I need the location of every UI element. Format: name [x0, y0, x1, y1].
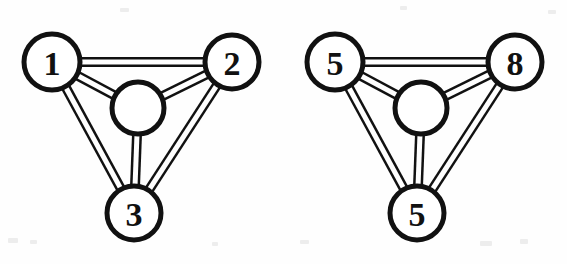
node-label: 5 — [327, 45, 344, 82]
node-2-top-right[interactable]: 2 — [205, 35, 259, 89]
scan-artifact — [520, 239, 528, 244]
hub-node-center[interactable] — [395, 82, 447, 134]
edge-gap-n3-hub — [135, 131, 137, 189]
scan-artifact — [400, 6, 407, 10]
scan-artifact — [8, 238, 18, 243]
node-1-top-left[interactable]: 1 — [24, 34, 80, 90]
edge-gap-n3-hub — [418, 131, 420, 189]
node-8-top-right[interactable]: 8 — [488, 35, 542, 89]
diagram-canvas: 123 585 — [0, 0, 567, 264]
scan-artifact — [300, 240, 309, 244]
scan-artifact — [212, 242, 218, 246]
scan-artifact — [480, 241, 492, 246]
scan-artifact — [30, 240, 37, 244]
edge-gap-n1-hub — [357, 74, 401, 97]
graph-diagram-right: 585 — [283, 0, 567, 264]
node-label: 1 — [44, 45, 61, 82]
node-5-top-left[interactable]: 5 — [307, 34, 363, 90]
edge-gap-n1-hub — [74, 74, 118, 97]
hub-circle-outline — [395, 82, 447, 134]
hub-circle-outline — [112, 82, 164, 134]
edge-gap-n2-hub — [159, 73, 211, 98]
node-label: 2 — [224, 45, 241, 82]
node-3-bottom[interactable]: 3 — [107, 186, 161, 240]
node-label: 5 — [409, 196, 426, 233]
hub-node-center[interactable] — [112, 82, 164, 134]
scan-artifact — [120, 8, 129, 12]
graph-diagram-left: 123 — [0, 0, 284, 264]
node-label: 8 — [507, 45, 524, 82]
edge-gap-n2-hub — [442, 73, 494, 98]
node-label: 3 — [126, 196, 143, 233]
scan-artifact — [548, 10, 556, 14]
node-5-bottom[interactable]: 5 — [390, 186, 444, 240]
